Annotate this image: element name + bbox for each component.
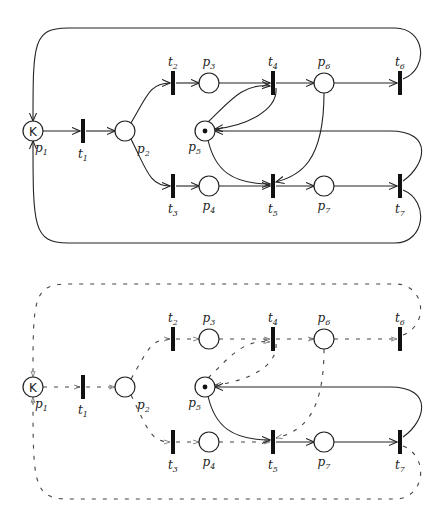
transition-t3: t3 [168,174,178,218]
label-p7: p7 [318,455,332,471]
transition-t2: t2 [168,311,178,351]
label-t3: t3 [168,458,178,474]
place-p3: p3 [199,311,219,349]
label-p2: p2 [137,398,150,414]
place-p4: p4 [199,176,219,215]
label-t6: t6 [395,55,405,71]
transition-t2: t2 [168,55,178,95]
token-icon [203,129,208,134]
label-p7: p7 [318,199,332,215]
transition-t5: t5 [268,430,278,474]
place-p2: p2 [115,377,150,414]
petri-net-top: Kp1p2p3p4p5p6p7t1t2t3t4t5t6t7 [23,28,422,243]
label-p6: p6 [318,311,331,327]
label-p1: p1 [35,141,48,157]
label-t7: t7 [395,458,406,474]
transition-t5: t5 [268,174,278,218]
label-t4: t4 [268,55,278,71]
arc-p5-to-t5 [208,396,270,440]
transition-t6: t6 [395,55,405,95]
label-t2: t2 [168,55,178,71]
label-t2: t2 [168,311,178,327]
place-p1: Kp1 [23,377,48,413]
arc-t6-to-p1 [33,28,421,121]
arc-t7-to-p5 [215,387,422,437]
place-p6: p6 [314,311,334,349]
place-p3: p3 [199,55,219,93]
label-p6: p6 [318,55,331,71]
label-p3: p3 [203,55,216,71]
label-p2: p2 [137,142,150,158]
label-t6: t6 [395,311,405,327]
arc-t4-to-p5 [215,88,276,129]
label-p3: p3 [203,311,216,327]
label-t1: t1 [78,403,88,419]
transition-t1: t1 [78,119,88,163]
place-p7: p7 [314,176,334,215]
arc-p5-to-t4 [208,342,270,378]
arc-p2-to-t2 [131,339,170,379]
petri-net-figure: Kp1p2p3p4p5p6p7t1t2t3t4t5t6t7 Kp1p2p3p4p… [0,0,439,524]
label-p5: p5 [188,396,201,412]
arc-t7-to-p1 [33,141,421,243]
arc-p2-to-t2 [131,83,170,123]
place-p2: p2 [115,121,150,158]
place-p1: Kp1 [23,121,48,157]
arc-p6-to-t5 [276,93,324,182]
transition-t1: t1 [78,375,88,419]
label-t5: t5 [268,458,278,474]
label-t4: t4 [268,311,278,327]
petri-net-bottom: Kp1p2p3p4p5p6p7t1t2t3t4t5t6t7 [23,284,422,499]
arc-p6-to-t5 [276,349,324,438]
transition-t3: t3 [168,430,178,474]
arc-t7-to-p1 [33,397,421,499]
label-t5: t5 [268,202,278,218]
arc-p5-to-t5 [208,140,270,184]
transition-t6: t6 [395,311,405,351]
arc-t7-to-p5 [215,131,422,181]
label-t3: t3 [168,202,178,218]
token-icon [203,385,208,390]
label-p4: p4 [203,199,216,215]
label-p4: p4 [203,455,216,471]
capacity-label: K [29,381,38,395]
label-t1: t1 [78,147,88,163]
place-p6: p6 [314,55,334,93]
arc-t6-to-p1 [33,284,421,377]
place-p4: p4 [199,432,219,471]
label-p1: p1 [35,397,48,413]
arc-t4-to-p5 [215,344,276,385]
label-p5: p5 [188,140,201,156]
capacity-label: K [29,125,38,139]
label-t7: t7 [395,202,406,218]
place-p7: p7 [314,432,334,471]
arc-p5-to-t4 [208,86,270,122]
